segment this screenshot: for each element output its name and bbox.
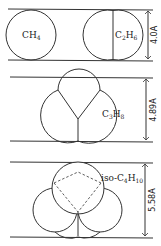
isobutane-top-atom bbox=[52, 162, 104, 214]
propane-label: C3H8 bbox=[102, 109, 125, 120]
dimension-label: 5.58A bbox=[148, 188, 157, 212]
ethane-label: C2H6 bbox=[115, 30, 138, 41]
dimension-label: 4.89A bbox=[149, 98, 158, 122]
propane-bond-v bbox=[58, 90, 100, 119]
panel-isobutane: iso-C4H10 5.58A bbox=[10, 162, 157, 238]
dimension-label: 4.0A bbox=[150, 25, 159, 44]
isobutane-label: iso-C4H10 bbox=[101, 173, 143, 184]
molecular-size-diagram: CH4 C2H6 4.0A C3H8 4.89A iso-C4H10 5.58A bbox=[0, 0, 161, 246]
top-boundary-line bbox=[10, 77, 153, 78]
panel-methane-ethane: CH4 C2H6 4.0A bbox=[6, 9, 159, 61]
methane-label: CH4 bbox=[22, 30, 41, 41]
propane-molecule bbox=[41, 69, 117, 143]
panel-propane: C3H8 4.89A bbox=[10, 69, 158, 143]
